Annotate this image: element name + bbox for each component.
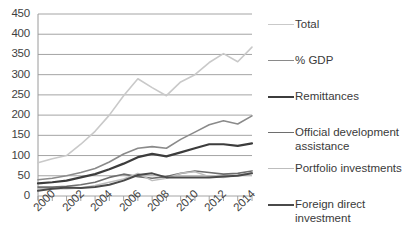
legend-item[interactable]: Remittances [268,89,359,103]
y-tick-label: 0 [0,189,30,201]
y-tick-label: 200 [0,108,30,120]
series-line [38,47,252,163]
gridlines [38,14,252,196]
legend-label: % GDP [295,53,333,67]
line-chart: 450400350300250200150100500 200020022004… [0,0,412,252]
legend-line-swatch-icon [268,168,294,169]
y-tick-label: 450 [0,7,30,19]
y-tick-label: 400 [0,27,30,39]
legend-label: Official development assistance [295,125,407,153]
data-series-group [38,47,252,191]
y-tick-label: 300 [0,68,30,80]
legend-label: Portfolio investments [295,161,402,175]
legend-label: Remittances [295,89,359,103]
legend-line-swatch-icon [268,60,294,61]
legend-item[interactable]: Foreign direct investment [268,197,407,225]
legend-item[interactable]: Total [268,17,319,31]
legend-item[interactable]: Portfolio investments [268,161,402,175]
legend-item[interactable]: % GDP [268,53,333,67]
legend-item[interactable]: Official development assistance [268,125,407,153]
y-tick-label: 150 [0,128,30,140]
y-tick-label: 250 [0,88,30,100]
legend-label: Total [295,17,319,31]
legend-line-swatch-icon [268,96,294,98]
legend-line-swatch-icon [268,24,294,25]
series-line [38,116,252,180]
y-tick-label: 50 [0,169,30,181]
legend-line-swatch-icon [268,132,294,133]
legend-label: Foreign direct investment [295,197,407,225]
y-tick-label: 350 [0,47,30,59]
legend: Total% GDPRemittancesOfficial developmen… [268,0,412,252]
legend-line-swatch-icon [268,204,294,206]
y-tick-label: 100 [0,149,30,161]
